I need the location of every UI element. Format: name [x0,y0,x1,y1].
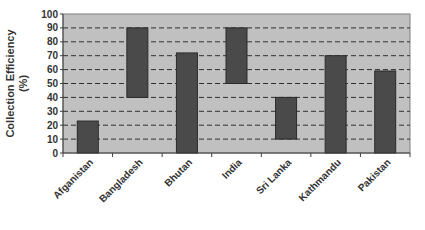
x-tick-label: Kathmandu [296,157,343,204]
x-tick-label: Bangladesh [97,157,145,205]
y-tick-label: 50 [47,78,59,89]
x-tick-label: Bhutan [162,157,194,189]
bar-bhutan [176,53,197,153]
collection-efficiency-chart: 0102030405060708090100 AfganistanBanglad… [0,0,425,230]
x-tick-label: Sri Lanka [254,156,294,196]
x-tick-label: India [220,156,245,181]
y-tick-label: 90 [47,22,59,33]
y-axis-label-line: (%) [17,75,29,92]
x-axis-ticks: AfganistanBangladeshBhutanIndiaSri Lanka… [51,153,410,204]
y-axis-label-line: Collection Efficiency [4,29,16,138]
y-tick-label: 30 [47,106,59,117]
bar-pakistan [375,71,396,153]
bar-india [226,28,247,84]
bar-afganistan [77,121,98,153]
y-axis-label: Collection Efficiency(%) [4,29,29,138]
bar-bangladesh [127,28,148,98]
x-tick-label: Pakistan [356,157,393,194]
y-tick-label: 100 [41,9,58,20]
y-tick-label: 20 [47,120,59,131]
y-tick-label: 60 [47,64,59,75]
x-tick-label: Afganistan [51,157,95,201]
y-tick-label: 40 [47,92,59,103]
y-tick-label: 70 [47,50,59,61]
y-tick-label: 80 [47,36,59,47]
bar-sri-lanka [276,97,297,139]
y-tick-label: 10 [47,134,59,145]
bar-kathmandu [325,56,346,153]
y-axis-ticks: 0102030405060708090100 [41,9,63,159]
y-tick-label: 0 [52,148,58,159]
